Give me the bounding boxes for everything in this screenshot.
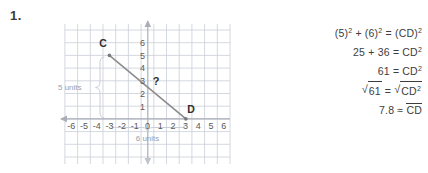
point-label-d: D	[187, 103, 195, 115]
y-tick-label: 2	[140, 89, 145, 99]
x-tick-label: 3	[183, 121, 188, 131]
brace-label-horizontal: 6 units	[136, 134, 160, 143]
x-tick-label: 0	[145, 121, 150, 131]
point-c-marker	[108, 54, 112, 58]
x-tick-label: 1	[158, 121, 163, 131]
worksheet-page: 1.	[0, 0, 428, 173]
x-tick-label: -4	[93, 121, 101, 131]
eq2-text: 25 + 36 = CD2	[353, 46, 422, 58]
y-axis-arrow-down	[145, 158, 152, 165]
equation-line-1: (5)2 + (6)2 = (CD)2	[288, 24, 422, 43]
x-tick-label: -5	[80, 121, 88, 131]
y-axis-arrow-up	[145, 20, 152, 27]
x-tick-label: -2	[118, 121, 126, 131]
x-tick-label: 4	[196, 121, 201, 131]
equation-line-4: 61 = CD2	[288, 81, 422, 101]
y-tick-label: 6	[140, 38, 145, 48]
y-tick-label: 5	[140, 51, 145, 61]
eq3-text: 61 = CD2	[378, 65, 422, 77]
x-tick-label: -3	[105, 121, 113, 131]
brace-label-vertical: 5 units	[58, 83, 82, 92]
unknown-length-marker: ?	[153, 75, 160, 87]
y-tick-label: 1	[140, 102, 145, 112]
x-tick-label: 6	[221, 121, 226, 131]
solution-steps: (5)2 + (6)2 = (CD)2 25 + 36 = CD2 61 = C…	[288, 24, 422, 120]
radical-cd-squared: CD2	[394, 81, 422, 101]
x-axis-labels: -6 -5 -4 -3 -2 -1 0 1 2 3 4 5 6	[67, 121, 226, 131]
y-tick-label: 4	[140, 63, 145, 73]
eq4-equals: =	[385, 85, 391, 97]
radical-61: 61	[362, 81, 382, 101]
radicand-61: 61	[368, 81, 382, 101]
x-axis-arrow-left	[60, 116, 67, 123]
eq5-value: 7.8	[379, 104, 394, 116]
x-tick-label: 2	[170, 121, 175, 131]
equation-line-5: 7.8 ≈ CD	[288, 101, 422, 120]
equation-line-3: 61 = CD2	[288, 62, 422, 81]
x-tick-label: -6	[67, 121, 75, 131]
y-tick-label: 3	[140, 76, 145, 86]
radicand-cd: CD2	[400, 81, 422, 101]
problem-number: 1.	[10, 8, 22, 23]
x-tick-label: -1	[131, 121, 139, 131]
coordinate-graph: -6 -5 -4 -3 -2 -1 0 1 2 3 4 5 6 1 2 3 4 …	[58, 14, 233, 166]
equation-line-2: 25 + 36 = CD2	[288, 43, 422, 62]
eq1-text: (5)2 + (6)2 = (CD)2	[335, 27, 422, 39]
point-label-c: C	[99, 37, 107, 49]
eq5-relation: ≈	[397, 104, 403, 116]
x-tick-label: 5	[208, 121, 213, 131]
graph-svg: -6 -5 -4 -3 -2 -1 0 1 2 3 4 5 6 1 2 3 4 …	[58, 14, 233, 166]
segment-cd-label: CD	[406, 103, 422, 116]
